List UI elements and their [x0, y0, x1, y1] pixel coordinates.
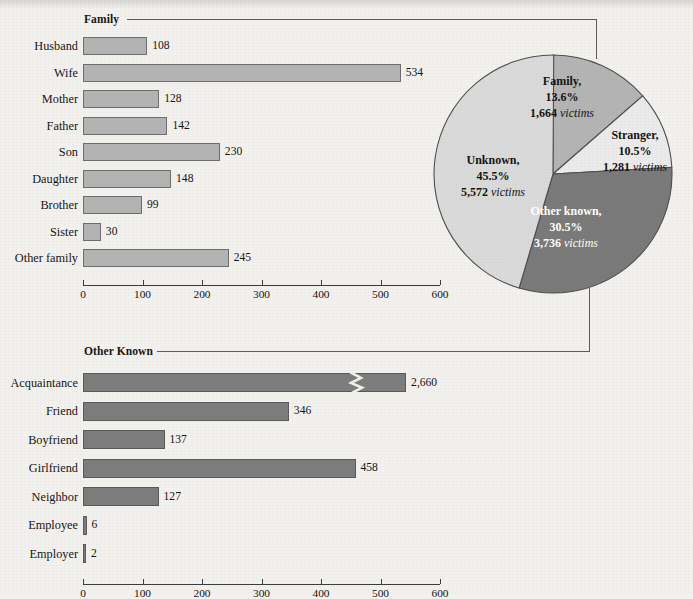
pie-label-unknown: Unknown, 45.5% 5,572 victims [438, 153, 548, 200]
bar [83, 117, 167, 135]
bar-category-label: Daughter [0, 173, 78, 185]
bar [83, 90, 159, 108]
bar-category-label: Neighbor [0, 491, 78, 503]
bar-value-label: 534 [406, 67, 423, 79]
bar-value-label: 458 [361, 462, 378, 474]
bar-value-label: 346 [294, 405, 311, 417]
bar-category-label: Mother [0, 93, 78, 105]
pie-label-stranger-victims: 1,281 [603, 160, 630, 174]
pie-label-stranger-name: Stranger, [611, 128, 658, 142]
x-axis-tick-label: 200 [177, 289, 227, 300]
bar [83, 459, 356, 478]
x-axis-line [83, 584, 440, 585]
bar-value-label: 2,660 [411, 377, 437, 389]
x-axis-tick [262, 280, 263, 285]
x-axis-tick [202, 280, 203, 285]
bar [83, 37, 147, 55]
pie-label-stranger-percent: 10.5% [619, 144, 652, 158]
bar-value-label: 127 [164, 491, 181, 503]
bar-category-label: Boyfriend [0, 434, 78, 446]
bar-category-label: Husband [0, 40, 78, 52]
bar [83, 487, 159, 506]
bar [83, 170, 171, 188]
pie-label-other-known-name: Other known, [530, 204, 601, 218]
pie-label-other-known-victims: 3,736 [534, 236, 561, 250]
bar-value-label: 148 [176, 173, 193, 185]
x-axis-tick [381, 579, 382, 584]
bar-category-label: Wife [0, 67, 78, 79]
pie-label-family-name: Family, [543, 74, 581, 88]
x-axis-tick-label: 400 [296, 588, 346, 599]
x-axis-tick-label: 0 [58, 289, 108, 300]
x-axis-tick [262, 579, 263, 584]
axis-break-zigzag-icon [346, 371, 368, 394]
x-axis-tick [381, 280, 382, 285]
bar [83, 430, 165, 449]
bar-category-label: Son [0, 146, 78, 158]
bar [83, 516, 87, 535]
bar-category-label: Father [0, 120, 78, 132]
bar-category-label: Brother [0, 199, 78, 211]
bar [83, 143, 220, 161]
x-axis-tick-label: 100 [118, 588, 168, 599]
bar-category-label: Sister [0, 226, 78, 238]
bar-value-label: 99 [147, 199, 159, 211]
bar [83, 64, 401, 82]
bar [83, 544, 86, 563]
bar [83, 249, 229, 267]
pie-label-family-victims: 1,664 [530, 106, 557, 120]
x-axis-tick-label: 500 [356, 588, 406, 599]
x-axis-tick-label: 300 [237, 289, 287, 300]
pie-label-unknown-victims: 5,572 [461, 185, 488, 199]
x-axis-tick [143, 579, 144, 584]
bar [83, 223, 101, 241]
bar-value-label: 2 [91, 548, 97, 560]
bracket-rule-other-known-horizontal [157, 351, 590, 352]
bar-value-label: 108 [152, 40, 169, 52]
bar-category-label: Friend [0, 405, 78, 417]
bar-value-label: 128 [164, 93, 181, 105]
bar [83, 402, 289, 421]
x-axis-tick-label: 500 [356, 289, 406, 300]
bar-value-label: 142 [172, 120, 189, 132]
x-axis-tick [202, 579, 203, 584]
x-axis-tick-label: 400 [296, 289, 346, 300]
other-known-bar-chart: Acquaintance2,660Friend346Boyfriend137Gi… [0, 355, 693, 593]
pie-label-other-known-unit: victims [564, 236, 598, 250]
x-axis-tick-label: 200 [177, 588, 227, 599]
bar-category-label: Acquaintance [0, 377, 78, 389]
pie-label-family: Family, 13.6% 1,664 victims [512, 74, 612, 121]
x-axis-tick [321, 579, 322, 584]
family-bar-chart: Husband108Wife534Mother128Father142Son23… [0, 0, 460, 310]
bar-value-label: 245 [234, 252, 251, 264]
pie-label-stranger-unit: victims [633, 160, 667, 174]
bar-category-label: Employer [0, 548, 78, 560]
bracket-rule-family-vertical [596, 19, 597, 59]
x-axis-line [83, 285, 440, 286]
bar-category-label: Employee [0, 519, 78, 531]
bar-value-label: 137 [170, 434, 187, 446]
x-axis-tick [83, 579, 84, 584]
pie-label-unknown-unit: victims [491, 185, 525, 199]
x-axis-tick-label: 0 [58, 588, 108, 599]
bar-category-label: Other family [0, 252, 78, 264]
pie-label-other-known: Other known, 30.5% 3,736 victims [508, 204, 624, 251]
bracket-rule-other-known-vertical [589, 288, 590, 352]
bar-value-label: 30 [106, 226, 118, 238]
pie-label-stranger: Stranger, 10.5% 1,281 victims [585, 128, 685, 175]
x-axis-tick-label: 600 [415, 588, 465, 599]
x-axis-tick [440, 579, 441, 584]
x-axis-tick-label: 300 [237, 588, 287, 599]
bar-value-label: 6 [92, 519, 98, 531]
pie-label-unknown-percent: 45.5% [477, 169, 510, 183]
x-axis-tick [83, 280, 84, 285]
pie-label-family-percent: 13.6% [546, 90, 579, 104]
pie-label-unknown-name: Unknown, [466, 153, 519, 167]
bar [83, 196, 142, 214]
bar-category-label: Girlfriend [0, 462, 78, 474]
pie-label-family-unit: victims [560, 106, 594, 120]
x-axis-tick [143, 280, 144, 285]
bar-value-label: 230 [225, 146, 242, 158]
pie-label-other-known-percent: 30.5% [550, 220, 583, 234]
